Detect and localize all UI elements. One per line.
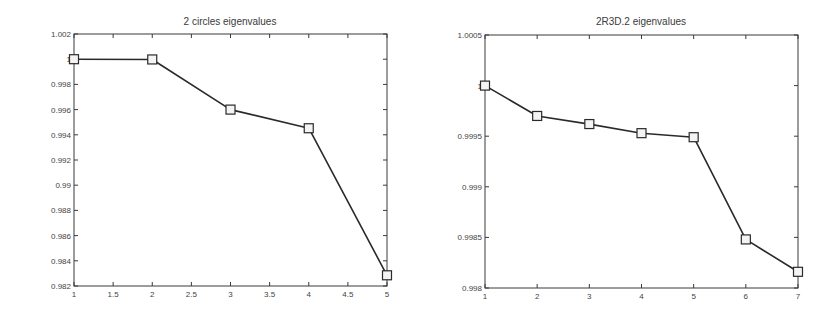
square-marker — [585, 120, 594, 129]
y-tick-label: 0.992 — [51, 156, 72, 165]
y-tick-label: 0.982 — [51, 282, 72, 291]
x-tick-label: 2 — [535, 292, 540, 301]
chart-title: 2 circles eigenvalues — [184, 16, 277, 27]
y-tick-label: 0.998 — [51, 80, 72, 89]
square-marker — [148, 55, 157, 64]
y-tick-label: 0.986 — [51, 232, 72, 241]
x-tick-label: 1.5 — [108, 290, 120, 299]
x-tick-label: 4.5 — [342, 290, 354, 299]
y-tick-label: 0.996 — [51, 106, 72, 115]
x-tick-label: 1 — [483, 292, 488, 301]
y-tick-label: 0.988 — [51, 206, 72, 215]
x-tick-label: 3 — [587, 292, 592, 301]
x-tick-label: 4 — [307, 290, 312, 299]
x-tick-label: 3.5 — [264, 290, 276, 299]
y-tick-label: 0.999 — [462, 183, 483, 192]
x-tick-label: 2 — [150, 290, 155, 299]
x-tick-label: 4 — [639, 292, 644, 301]
y-tick-label: 0.984 — [51, 257, 72, 266]
y-tick-label: 0.998 — [462, 284, 483, 293]
x-tick-label: 6 — [744, 292, 749, 301]
square-marker — [637, 129, 646, 138]
square-marker — [481, 81, 490, 90]
square-marker — [689, 133, 698, 142]
x-tick-label: 2.5 — [186, 290, 198, 299]
x-tick-label: 5 — [691, 292, 696, 301]
square-marker — [741, 235, 750, 244]
chart-2r3d2-eigenvalues: 2R3D.2 eigenvalues 12345670.9980.99850.9… — [458, 16, 803, 301]
square-marker — [794, 267, 803, 276]
y-tick-label: 0.9995 — [458, 132, 483, 141]
y-tick-label: 0.9985 — [458, 233, 483, 242]
x-tick-label: 5 — [385, 290, 390, 299]
y-tick-label: 0.994 — [51, 131, 72, 140]
square-marker — [304, 124, 313, 133]
y-tick-label: 1.002 — [51, 30, 72, 39]
chart-title: 2R3D.2 eigenvalues — [596, 16, 686, 27]
figure-canvas: 2 circles eigenvalues 11.522.533.544.550… — [0, 0, 837, 318]
square-marker — [533, 111, 542, 120]
x-tick-label: 1 — [72, 290, 77, 299]
data-line — [74, 59, 387, 275]
y-tick-label: 1.0005 — [458, 31, 483, 40]
x-tick-label: 7 — [796, 292, 801, 301]
plot-frame — [74, 34, 387, 286]
x-tick-label: 3 — [228, 290, 233, 299]
y-tick-label: 0.99 — [55, 181, 71, 190]
data-line — [485, 86, 798, 272]
square-marker — [226, 105, 235, 114]
chart-2-circles-eigenvalues: 2 circles eigenvalues 11.522.533.544.550… — [51, 16, 392, 299]
square-marker — [383, 271, 392, 280]
square-marker — [70, 55, 79, 64]
plot-frame — [485, 35, 798, 288]
